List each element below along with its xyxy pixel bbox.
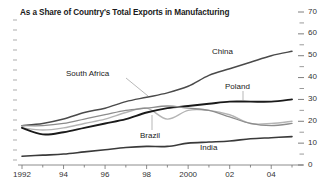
chart-axes <box>13 12 304 169</box>
series-label-brazil: Brazil <box>140 131 160 140</box>
series-line-poland <box>22 99 292 134</box>
series-label-south-africa: South Africa <box>66 69 109 78</box>
leader-line-south-africa <box>126 78 148 96</box>
x-tick-label: 04 <box>256 170 286 179</box>
x-tick-label: 94 <box>49 170 79 179</box>
y-tick-label: 20 <box>308 116 317 125</box>
chart-series <box>22 51 292 156</box>
series-label-india: India <box>200 143 217 152</box>
series-label-poland: Poland <box>225 82 250 91</box>
line-chart-plot <box>0 0 327 185</box>
series-line-brazil <box>22 106 292 126</box>
y-tick-label: 10 <box>308 138 317 147</box>
y-tick-label: 40 <box>308 72 317 81</box>
x-tick-label: 98 <box>132 170 162 179</box>
y-tick-label: 60 <box>308 28 317 37</box>
x-tick-label: 1992 <box>7 170 37 179</box>
y-tick-label: 50 <box>308 50 317 59</box>
y-tick-label: 70 <box>308 7 317 16</box>
series-label-china: China <box>212 47 233 56</box>
x-tick-label: 2000 <box>173 170 203 179</box>
y-tick-label: 30 <box>308 94 317 103</box>
chart-container: As a Share of Country's Total Exports in… <box>0 0 327 185</box>
y-tick-label: 0 <box>308 160 312 169</box>
x-tick-label: 96 <box>90 170 120 179</box>
x-tick-label: 02 <box>215 170 245 179</box>
